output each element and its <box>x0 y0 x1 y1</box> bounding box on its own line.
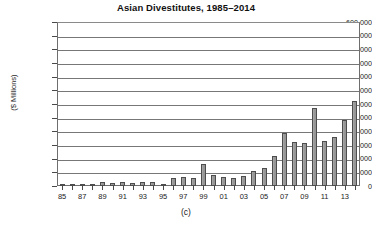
x-axis-tick-mark <box>325 186 326 190</box>
bar <box>181 177 186 186</box>
x-axis-tick-mark <box>254 186 255 190</box>
x-axis-tick-mark <box>274 186 275 190</box>
chart-figure: Asian Divestitutes, 1985–2014 ($ Million… <box>0 0 372 228</box>
x-axis-tick-mark <box>82 186 83 190</box>
bar <box>251 171 256 186</box>
x-axis-tick-label: 85 <box>54 192 70 201</box>
x-axis-tick-mark <box>224 186 225 190</box>
bar <box>201 164 206 186</box>
x-axis-tick-mark <box>113 186 114 190</box>
bar <box>211 175 216 186</box>
bar <box>342 120 347 186</box>
x-axis-tick-mark <box>234 186 235 190</box>
x-axis-tick-label: 09 <box>296 192 312 201</box>
bar <box>171 178 176 186</box>
bar <box>241 176 246 186</box>
x-axis-tick-label: 03 <box>236 192 252 201</box>
x-axis-tick-label: 87 <box>74 192 90 201</box>
x-axis-tick-mark <box>163 186 164 190</box>
x-axis-tick-label: 07 <box>276 192 292 201</box>
x-axis-tick-mark <box>72 186 73 190</box>
x-axis-tick-mark <box>244 186 245 190</box>
bar <box>262 168 267 186</box>
x-axis-tick-mark <box>102 186 103 190</box>
x-axis-tick-mark <box>193 186 194 190</box>
bar <box>221 177 226 186</box>
x-axis-tick-mark <box>294 186 295 190</box>
bar <box>322 141 327 186</box>
x-axis-tick-mark <box>345 186 346 190</box>
x-axis-tick-mark <box>264 186 265 190</box>
x-axis-tick-label: 93 <box>135 192 151 201</box>
x-axis-tick-mark <box>335 186 336 190</box>
x-axis-tick-mark <box>153 186 154 190</box>
x-axis-tick-label: 05 <box>256 192 272 201</box>
bar <box>231 178 236 186</box>
bar <box>191 178 196 186</box>
bar <box>332 137 337 186</box>
x-axis-tick-mark <box>183 186 184 190</box>
x-axis-tick-label: 11 <box>317 192 333 201</box>
x-axis-tick-mark <box>214 186 215 190</box>
bar <box>282 133 287 186</box>
figure-caption: (c) <box>0 207 372 217</box>
x-axis-tick-mark <box>123 186 124 190</box>
x-axis-tick-mark <box>92 186 93 190</box>
bar <box>312 108 317 186</box>
x-axis-tick-label: 01 <box>216 192 232 201</box>
x-axis-tick-mark <box>173 186 174 190</box>
x-axis-tick-mark <box>62 186 63 190</box>
y-axis-title: ($ Millions) <box>9 58 18 128</box>
x-axis-tick-label: 97 <box>175 192 191 201</box>
bar <box>352 101 357 186</box>
bar <box>292 142 297 186</box>
x-axis-tick-mark <box>203 186 204 190</box>
x-axis-tick-mark <box>143 186 144 190</box>
x-axis-tick-label: 99 <box>195 192 211 201</box>
x-axis-tick-mark <box>315 186 316 190</box>
x-axis-tick-label: 95 <box>155 192 171 201</box>
y-axis-tick-mark <box>52 186 57 187</box>
x-axis-tick-mark <box>133 186 134 190</box>
x-axis-tick-mark <box>304 186 305 190</box>
x-axis-tick-label: 13 <box>337 192 353 201</box>
bar <box>302 143 307 186</box>
x-axis-tick-label: 89 <box>94 192 110 201</box>
x-axis-tick-mark <box>284 186 285 190</box>
x-axis-tick-mark <box>355 186 356 190</box>
x-axis-tick-label: 91 <box>115 192 131 201</box>
bar <box>272 156 277 186</box>
bar-series <box>57 22 360 186</box>
chart-title: Asian Divestitutes, 1985–2014 <box>0 2 372 13</box>
